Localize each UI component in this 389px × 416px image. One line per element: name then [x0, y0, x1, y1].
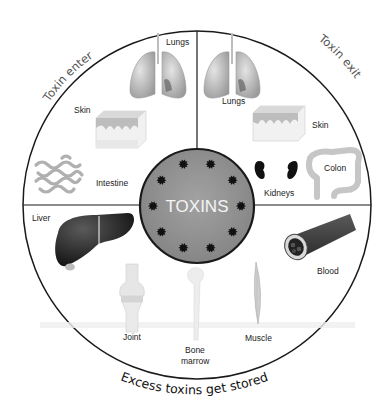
svg-text:Lungs: Lungs [222, 96, 245, 106]
section-title-exit: Toxin exit [315, 31, 364, 81]
svg-text:Intestine: Intestine [96, 178, 128, 188]
svg-text:Skin: Skin [74, 105, 91, 115]
svg-text:Colon: Colon [324, 163, 346, 173]
svg-text:Liver: Liver [32, 213, 51, 223]
svg-text:Muscle: Muscle [245, 333, 272, 343]
toxins-center: TOXINS [140, 149, 254, 263]
svg-text:Bone: Bone [185, 345, 205, 355]
svg-text:Blood: Blood [317, 266, 339, 276]
center-label: TOXINS [166, 197, 229, 216]
toxin-cycle-diagram: Toxin enter Toxin exit Excess toxins get… [0, 0, 389, 416]
svg-text:Kidneys: Kidneys [264, 188, 294, 198]
svg-text:marrow: marrow [181, 356, 210, 366]
svg-text:Lungs: Lungs [166, 37, 189, 47]
svg-text:Joint: Joint [123, 332, 142, 342]
svg-text:Skin: Skin [312, 120, 329, 130]
